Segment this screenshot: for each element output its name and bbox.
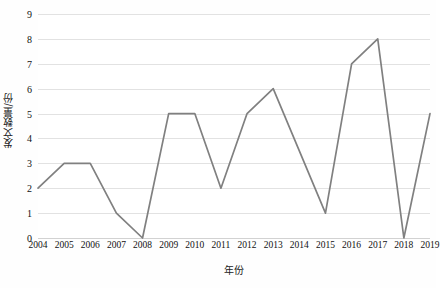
x-tick-label-2019: 2019 (421, 240, 440, 250)
x-tick-label-2018: 2018 (394, 240, 413, 250)
x-tick-label-2010: 2010 (185, 240, 204, 250)
x-tick-label-2014: 2014 (290, 240, 309, 250)
x-tick-label-2009: 2009 (159, 240, 178, 250)
plot-area (38, 14, 430, 238)
x-tick-label-2015: 2015 (316, 240, 335, 250)
x-tick-label-2007: 2007 (107, 240, 126, 250)
y-tick-label-8: 8 (27, 33, 32, 44)
series-polyline (38, 39, 430, 238)
x-tick-label-2005: 2005 (55, 240, 74, 250)
x-tick-label-2011: 2011 (212, 240, 231, 250)
y-tick-label-5: 5 (27, 108, 32, 119)
x-tick-label-2008: 2008 (133, 240, 152, 250)
x-tick-label-2012: 2012 (238, 240, 257, 250)
x-tick-label-2016: 2016 (342, 240, 361, 250)
y-axis-title: 发文数量/份 (0, 0, 16, 240)
y-axis-title-text: 发文数量/份 (1, 92, 16, 148)
series-line-chart (38, 14, 430, 238)
x-tick-label-2013: 2013 (264, 240, 283, 250)
y-tick-label-7: 7 (27, 58, 32, 69)
y-tick-label-1: 1 (27, 208, 32, 219)
gridline-y-0 (38, 238, 430, 239)
y-tick-label-3: 3 (27, 158, 32, 169)
y-tick-label-2: 2 (27, 183, 32, 194)
x-tick-label-2006: 2006 (81, 240, 100, 250)
x-axis-title: 年份 (38, 262, 430, 277)
y-tick-label-4: 4 (27, 133, 32, 144)
y-tick-label-9: 9 (27, 9, 32, 20)
y-tick-label-6: 6 (27, 83, 32, 94)
x-axis-tick-labels: 2004200520062007200820092010201120122013… (38, 240, 430, 256)
x-tick-label-2017: 2017 (368, 240, 387, 250)
x-tick-label-2004: 2004 (29, 240, 48, 250)
